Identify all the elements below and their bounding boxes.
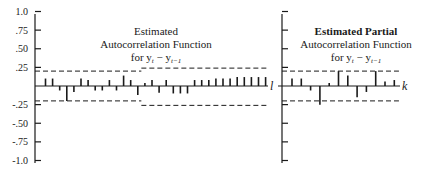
y-tick-label: .50 <box>16 43 29 54</box>
y-tick-label: -.50 <box>12 118 28 129</box>
y-tick-label: .25 <box>16 62 29 73</box>
pacf-spikes <box>292 71 394 105</box>
pacf-title-line-1: Estimated Partial <box>315 25 398 37</box>
acf-panel: 1.0.75.50.25-.25-.50-.75-1.0 l Estimated… <box>12 6 274 166</box>
acf-title-line-2: Autocorrelation Function <box>100 38 212 50</box>
y-tick-label: -.75 <box>12 136 28 147</box>
pacf-panel: k Estimated Partial Autocorrelation Func… <box>278 12 412 164</box>
y-tick-label: .75 <box>16 25 29 36</box>
acf-y-tick-labels: 1.0.75.50.25-.25-.50-.75-1.0 <box>12 6 28 166</box>
y-tick-label: -1.0 <box>12 155 28 166</box>
correlogram-figure: 1.0.75.50.25-.25-.50-.75-1.0 l Estimated… <box>0 0 423 177</box>
pacf-x-axis-label: k <box>402 79 408 93</box>
acf-title-line-1: Estimated <box>134 25 178 37</box>
y-tick-label: 1.0 <box>16 6 29 17</box>
acf-spikes <box>46 76 266 101</box>
pacf-title-line-2: Autocorrelation Function <box>300 38 412 50</box>
acf-x-axis-label: l <box>270 79 274 93</box>
pacf-title-line-3: for yt − yt−1 <box>331 51 381 65</box>
acf-confidence-bounds <box>35 68 269 105</box>
acf-title-line-3: for yt − yt−1 <box>131 51 181 65</box>
y-tick-label: -.25 <box>12 99 28 110</box>
